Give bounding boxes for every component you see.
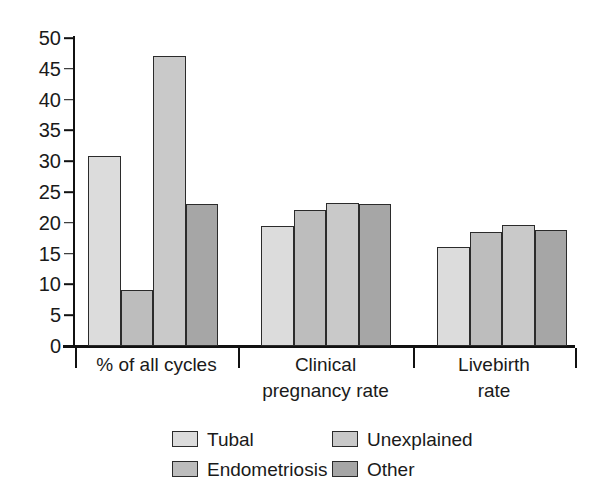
- y-axis-tick: [64, 253, 73, 255]
- y-axis-tick-label: 15: [39, 244, 61, 264]
- y-axis-tick: [64, 37, 73, 39]
- y-axis-tick: [64, 284, 73, 286]
- bar: [326, 203, 359, 346]
- y-axis-tick-label: 50: [39, 28, 61, 48]
- chart-legend: Tubal Unexplained Endometriosis Other: [172, 424, 472, 484]
- y-axis-tick-label: 20: [39, 213, 61, 233]
- bar: [294, 210, 327, 346]
- y-axis-tick: [64, 68, 73, 70]
- y-axis-tick-label: 0: [50, 336, 61, 356]
- legend-label: Tubal: [207, 430, 254, 449]
- plot-area: 05101520253035404550: [73, 38, 573, 346]
- legend-label: Unexplained: [367, 430, 473, 449]
- y-axis-tick: [64, 345, 73, 347]
- legend-item[interactable]: Endometriosis: [172, 460, 332, 479]
- legend-swatch-icon: [332, 461, 358, 477]
- y-axis-tick-label: 40: [39, 90, 61, 110]
- x-axis-category-label: Livebirth rate: [413, 352, 575, 404]
- legend-item[interactable]: Other: [332, 460, 492, 479]
- y-axis-tick-label: 30: [39, 151, 61, 171]
- bar: [359, 204, 392, 346]
- y-axis-tick-label: 5: [50, 305, 61, 325]
- y-axis-tick-label: 10: [39, 274, 61, 294]
- legend-label: Endometriosis: [207, 460, 327, 479]
- y-axis-tick: [64, 130, 73, 132]
- legend-item[interactable]: Unexplained: [332, 430, 492, 449]
- x-axis-category-label: Clinical pregnancy rate: [238, 352, 413, 404]
- bar: [470, 232, 503, 346]
- legend-swatch-icon: [172, 461, 198, 477]
- bar-chart: 05101520253035404550 % of all cyclesClin…: [0, 0, 616, 492]
- y-axis-tick: [64, 160, 73, 162]
- legend-swatch-icon: [332, 431, 358, 447]
- y-axis-tick: [64, 99, 73, 101]
- bar: [261, 226, 294, 346]
- bar: [502, 225, 535, 346]
- bar: [88, 156, 121, 346]
- y-axis-tick: [64, 222, 73, 224]
- bar: [153, 56, 186, 346]
- legend-label: Other: [367, 460, 415, 479]
- bar: [535, 230, 568, 346]
- y-axis-tick: [64, 314, 73, 316]
- y-axis-tick-label: 35: [39, 120, 61, 140]
- legend-item[interactable]: Tubal: [172, 430, 332, 449]
- legend-swatch-icon: [172, 431, 198, 447]
- bar: [437, 247, 470, 346]
- y-axis-tick: [64, 191, 73, 193]
- y-axis-tick-label: 45: [39, 59, 61, 79]
- bar: [186, 204, 219, 346]
- y-axis-tick-label: 25: [39, 182, 61, 202]
- bar: [121, 290, 154, 346]
- axis-group-separator: [575, 348, 577, 368]
- x-axis-category-label: % of all cycles: [75, 352, 238, 378]
